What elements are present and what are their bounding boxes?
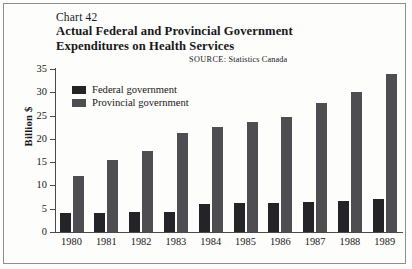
y-tick-35 xyxy=(50,69,55,70)
source-label: SOURCE: xyxy=(189,55,226,64)
page-title-line2: Expenditures on Health Services xyxy=(56,39,396,54)
y-tick-label-35: 35 xyxy=(37,64,47,74)
bar-federal-1989 xyxy=(373,199,384,232)
bar-group-1984: 1984 xyxy=(199,69,234,232)
page-title-line1: Actual Federal and Provincial Government xyxy=(56,24,396,39)
x-tick-label-1981: 1981 xyxy=(89,236,123,247)
bar-federal-1983 xyxy=(164,212,175,232)
bar-group-1980: 1980 xyxy=(60,69,95,232)
bar-provincial-1981 xyxy=(107,160,118,232)
bar-group-1986: 1986 xyxy=(268,69,303,232)
bar-group-1981: 1981 xyxy=(94,69,129,232)
bar-group-1985: 1985 xyxy=(234,69,269,232)
bar-provincial-1984 xyxy=(212,127,223,232)
x-tick-label-1989: 1989 xyxy=(368,236,402,247)
y-tick-label-20: 20 xyxy=(37,134,47,144)
y-tick-label-0: 0 xyxy=(42,227,47,237)
bar-provincial-1985 xyxy=(247,122,258,232)
y-axis-title: Billion $ xyxy=(23,107,34,147)
y-tick-label-25: 25 xyxy=(37,111,47,121)
y-axis-line xyxy=(55,68,56,233)
bar-federal-1985 xyxy=(234,203,245,232)
bar-federal-1982 xyxy=(129,212,140,232)
x-tick-label-1983: 1983 xyxy=(159,236,193,247)
y-tick-label-10: 10 xyxy=(37,180,47,190)
bar-federal-1987 xyxy=(303,202,314,232)
bar-provincial-1988 xyxy=(351,92,362,232)
y-tick-10 xyxy=(50,185,55,186)
x-tick-label-1987: 1987 xyxy=(298,236,332,247)
bar-group-1989: 1989 xyxy=(373,69,408,232)
y-tick-label-15: 15 xyxy=(37,157,47,167)
x-tick-label-1980: 1980 xyxy=(55,236,89,247)
x-tick-label-1985: 1985 xyxy=(229,236,263,247)
chart-number: Chart 42 xyxy=(56,11,396,24)
chart-frame: Chart 42 Actual Federal and Provincial G… xyxy=(3,3,406,264)
x-axis-line xyxy=(55,232,403,233)
bar-provincial-1982 xyxy=(142,151,153,233)
bar-group-1983: 1983 xyxy=(164,69,199,232)
header-block: Chart 42 Actual Federal and Provincial G… xyxy=(56,11,396,53)
y-tick-30 xyxy=(50,92,55,93)
x-tick-label-1982: 1982 xyxy=(124,236,158,247)
bar-provincial-1987 xyxy=(316,103,327,232)
y-tick-label-5: 5 xyxy=(42,204,47,214)
source-value: Statistics Canada xyxy=(229,55,288,64)
bar-provincial-1989 xyxy=(386,74,397,232)
bar-federal-1984 xyxy=(199,204,210,232)
plot-area: Billion $ 35302520151050 198019811982198… xyxy=(55,69,403,232)
chart-inner: Chart 42 Actual Federal and Provincial G… xyxy=(4,4,405,263)
x-tick-label-1988: 1988 xyxy=(333,236,367,247)
y-tick-label-30: 30 xyxy=(37,87,47,97)
y-tick-5 xyxy=(50,209,55,210)
x-tick-label-1984: 1984 xyxy=(194,236,228,247)
x-tick-label-1986: 1986 xyxy=(263,236,297,247)
bar-federal-1981 xyxy=(94,213,105,232)
bar-group-1988: 1988 xyxy=(338,69,373,232)
bar-group-1987: 1987 xyxy=(303,69,338,232)
bar-provincial-1983 xyxy=(177,133,188,232)
y-tick-0 xyxy=(50,232,55,233)
y-tick-25 xyxy=(50,116,55,117)
bar-federal-1980 xyxy=(60,213,71,232)
y-tick-20 xyxy=(50,139,55,140)
bar-provincial-1980 xyxy=(73,176,84,232)
bar-provincial-1986 xyxy=(281,117,292,232)
bar-federal-1986 xyxy=(268,203,279,232)
bar-group-1982: 1982 xyxy=(129,69,164,232)
bar-federal-1988 xyxy=(338,201,349,232)
y-tick-15 xyxy=(50,162,55,163)
source-note: SOURCE: Statistics Canada xyxy=(189,55,287,64)
